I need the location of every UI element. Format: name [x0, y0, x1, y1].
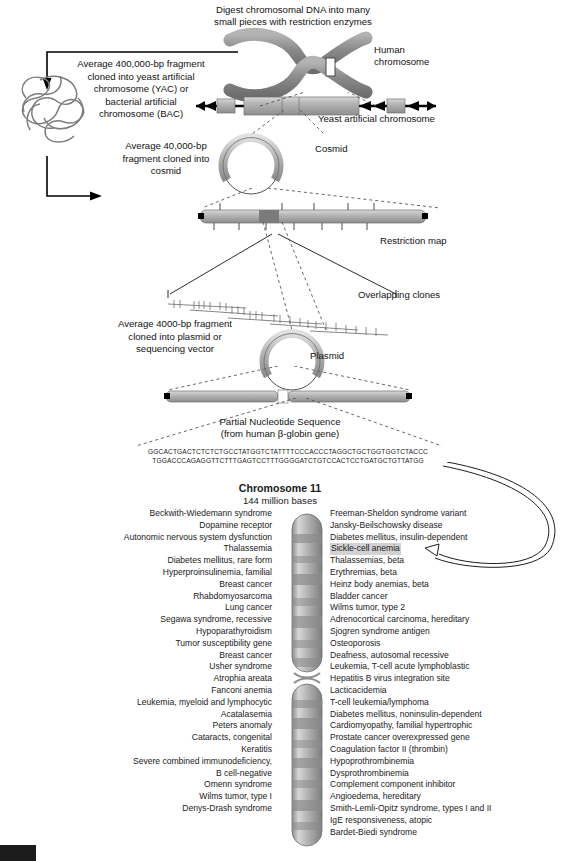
disease-left-item: Cataracts, congenital	[20, 732, 272, 744]
disease-right-item: Freeman-Sheldon syndrome variant	[330, 508, 567, 520]
disease-right-item: Wilms tumor, type 2	[330, 602, 567, 614]
disease-left-item: Leukemia, myeloid and lymphocytic	[20, 697, 272, 709]
disease-right-item: Leukemia, T-cell acute lymphoblastic	[330, 661, 567, 673]
disease-right-item: T-cell leukemia/lymphoma	[330, 697, 567, 709]
chromosome-title: Chromosome 11	[160, 482, 400, 494]
human-chromosome-label: Human chromosome	[374, 44, 454, 68]
disease-left-item: Fanconi anemia	[20, 685, 272, 697]
disease-right-item: Angioedema, hereditary	[330, 791, 567, 803]
highlighted-disease-label: Sickle-cell anemia	[330, 543, 401, 555]
disease-right-item: Deafness, autosomal recessive	[330, 650, 567, 662]
disease-right-item: Dysprothrombinemia	[330, 768, 567, 780]
yac-label: Yeast artificial chromosome	[318, 113, 488, 124]
disease-right-item: Sjogren syndrome antigen	[330, 626, 567, 638]
disease-right-item: Hypoprothrombinemia	[330, 756, 567, 768]
disease-left-item: Segawa syndrome, recessive	[20, 614, 272, 626]
disease-left-item: Keratitis	[20, 744, 272, 756]
disease-left-item: Denys-Drash syndrome	[20, 803, 272, 815]
disease-left-item: Beckwith-Wiedemann syndrome	[20, 508, 272, 520]
disease-left-item: Autonomic nervous system dysfunction	[20, 532, 272, 544]
disease-right-item: Erythremias, beta	[330, 567, 567, 579]
disease-left-item: Atrophia areata	[20, 673, 272, 685]
disease-left-item: Hypoparathyroidism	[20, 626, 272, 638]
disease-right-item: Jansky-Beilschowsky disease	[330, 520, 567, 532]
digest-caption: Digest chromosomal DNA into many small p…	[163, 4, 423, 28]
disease-left-item: Peters anomaly	[20, 720, 272, 732]
disease-right-item: Bladder cancer	[330, 591, 567, 603]
chromosome-11-ideogram	[290, 512, 324, 848]
disease-right-item: Osteoporosis	[330, 638, 567, 650]
disease-right-item: Lacticacidemia	[330, 685, 567, 697]
disease-left-item: Tumor susceptibility gene	[20, 638, 272, 650]
sequence-line-1: GGCACTGACTCTCTCTGCCTATGGTCTATTTTCCCACCCT…	[133, 448, 443, 457]
disease-left-item: Severe combined immunodeficiency,	[20, 756, 272, 768]
disease-left-item: Acatalasemia	[20, 709, 272, 721]
disease-left-item: Wilms tumor, type I	[20, 791, 272, 803]
dashed-connector-yac-cosmid	[230, 110, 340, 136]
disease-right-item: Diabetes mellitus, insulin-dependent	[330, 532, 567, 544]
disease-left-item: B cell-negative	[20, 768, 272, 780]
disease-right-item: Prostate cancer overexpressed gene	[330, 732, 567, 744]
disease-right-item: Sickle-cell anemia	[330, 543, 567, 555]
disease-left-item: Lung cancer	[20, 602, 272, 614]
disease-left-item: Thalassemia	[20, 543, 272, 555]
disease-list-right: Freeman-Sheldon syndrome variantJansky-B…	[330, 508, 567, 838]
disease-right-item: Bardet-Biedi syndrome	[330, 827, 567, 839]
disease-left-item: Hyperproinsulinemia, familial	[20, 567, 272, 579]
chromosome-subtitle: 144 million bases	[160, 495, 400, 506]
plasmid-label: Plasmid	[310, 350, 344, 361]
disease-right-item: IgE responsiveness, atopic	[330, 815, 567, 827]
yac-caption: Average 400,000-bp fragment cloned into …	[66, 58, 216, 121]
disease-right-item: Heinz body anemias, beta	[330, 579, 567, 591]
plasmid-caption: Average 4000-bp fragment cloned into pla…	[100, 318, 250, 356]
disease-right-item: Smith-Lemli-Opitz syndrome, types I and …	[330, 803, 567, 815]
disease-right-item: Diabetes mellitus, noninsulin-dependent	[330, 709, 567, 721]
disease-left-item: Diabetes mellitus, rare form	[20, 555, 272, 567]
disease-right-item: Adrenocortical carcinoma, hereditary	[330, 614, 567, 626]
cosmid-label: Cosmid	[315, 143, 348, 154]
disease-left-item: Omenn syndrome	[20, 779, 272, 791]
disease-right-item: Cardiomyopathy, familial hypertrophic	[330, 720, 567, 732]
overlapping-clones-label: Overlapping clones	[358, 289, 440, 300]
dashed-connector-chromosome-yac	[200, 92, 440, 112]
page-corner-bar	[0, 845, 36, 861]
disease-right-item: Hepatitis B virus integration site	[330, 673, 567, 685]
disease-right-item: Thalassemias, beta	[330, 555, 567, 567]
disease-left-item: Usher syndrome	[20, 661, 272, 673]
disease-left-item: Breast cancer	[20, 650, 272, 662]
figure-canvas: Digest chromosomal DNA into many small p…	[0, 0, 567, 861]
disease-right-item: Coagulation factor II (thrombin)	[330, 744, 567, 756]
disease-left-item: Rhabdomyosarcoma	[20, 591, 272, 603]
disease-left-item: Dopamine receptor	[20, 520, 272, 532]
disease-right-item: Complement component inhibitor	[330, 779, 567, 791]
disease-left-item: Breast cancer	[20, 579, 272, 591]
disease-list-left: Beckwith-Wiedemann syndromeDopamine rece…	[20, 508, 272, 815]
sequence-title: Partial Nucleotide Sequence (from human …	[160, 416, 400, 440]
